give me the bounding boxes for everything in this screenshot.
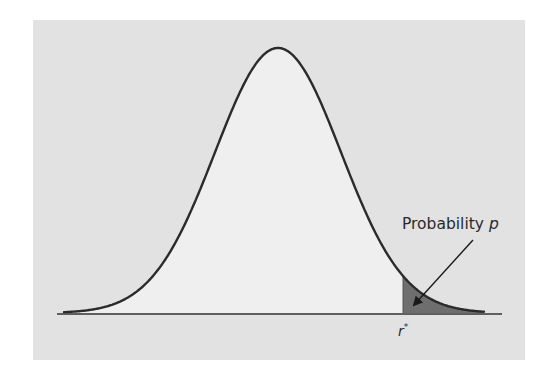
probability-label: Probability p [402,215,499,233]
normal-curve-figure: Probability p r* [0,0,556,367]
